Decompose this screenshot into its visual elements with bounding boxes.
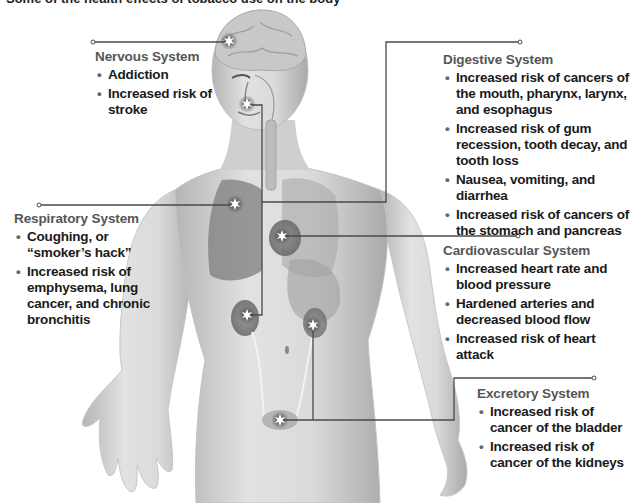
bullet-icon: • (445, 261, 450, 277)
bullet-icon: • (97, 86, 102, 102)
bullet-icon: • (16, 264, 21, 280)
digestive-system-callout: Digestive System •Increased risk of canc… (443, 52, 635, 242)
lung-marker-star-icon (226, 195, 244, 213)
excretory-system-list: •Increased risk of cancer of the bladder… (477, 404, 632, 471)
bullet-icon: • (445, 70, 450, 86)
list-item: •Increased risk of emphysema, lung cance… (14, 264, 164, 328)
nervous-system-list: •Addiction •Increased risk of stroke (95, 67, 215, 118)
mouth-marker-star-icon (238, 95, 256, 113)
digestive-system-list: •Increased risk of cancers of the mouth,… (443, 70, 635, 239)
excretory-system-callout: Excretory System •Increased risk of canc… (477, 386, 632, 474)
bullet-icon: • (479, 439, 484, 455)
cardiovascular-system-title: Cardiovascular System (443, 243, 633, 258)
bullet-icon: • (445, 121, 450, 137)
nervous-connector-end (91, 40, 95, 44)
respiratory-system-callout: Respiratory System •Coughing, or “smoker… (14, 211, 164, 331)
brain-marker-star-icon (220, 32, 238, 50)
bullet-icon: • (445, 331, 450, 347)
bullet-icon: • (445, 207, 450, 223)
left-kidney-marker-star-icon (238, 306, 256, 324)
excretory-system-title: Excretory System (477, 386, 632, 401)
respiratory-system-title: Respiratory System (14, 211, 164, 226)
list-item: •Increased risk of cancers of the stomac… (443, 207, 635, 239)
list-item: •Coughing, or “smoker’s hack” (14, 229, 164, 261)
bullet-icon: • (479, 404, 484, 420)
list-item: •Increased risk of gum recession, tooth … (443, 121, 635, 169)
respiratory-connector-end (37, 203, 41, 207)
bullet-icon: • (445, 172, 450, 188)
bullet-icon: • (445, 296, 450, 312)
list-item: •Hardened arteries and decreased blood f… (443, 296, 633, 328)
nervous-system-title: Nervous System (95, 49, 215, 64)
digestive-system-title: Digestive System (443, 52, 635, 67)
cardiovascular-system-list: •Increased heart rate and blood pressure… (443, 261, 633, 363)
cardiovascular-system-callout: Cardiovascular System •Increased heart r… (443, 243, 633, 366)
list-item: •Nausea, vomiting, and diarrhea (443, 172, 635, 204)
list-item: •Addiction (95, 67, 215, 83)
list-item: •Increased risk of stroke (95, 86, 215, 118)
list-item: •Increased risk of cancer of the kidneys (477, 439, 632, 471)
bullet-icon: • (97, 67, 102, 83)
bullet-icon: • (16, 229, 21, 245)
list-item: •Increased risk of cancers of the mouth,… (443, 70, 635, 118)
list-item: •Increased risk of cancer of the bladder (477, 404, 632, 436)
bladder-marker-star-icon (271, 411, 289, 429)
top-caption: Some of the health effects of tobacco us… (6, 0, 340, 6)
digestive-connector-end (518, 40, 522, 44)
respiratory-system-list: •Coughing, or “smoker’s hack” •Increased… (14, 229, 164, 328)
heart-marker-star-icon (273, 227, 291, 245)
excretory-connector-end (592, 376, 596, 380)
list-item: •Increased risk of heart attack (443, 331, 633, 363)
right-kidney-marker-star-icon (304, 316, 322, 334)
list-item: •Increased heart rate and blood pressure (443, 261, 633, 293)
nervous-system-callout: Nervous System •Addiction •Increased ris… (95, 49, 215, 121)
